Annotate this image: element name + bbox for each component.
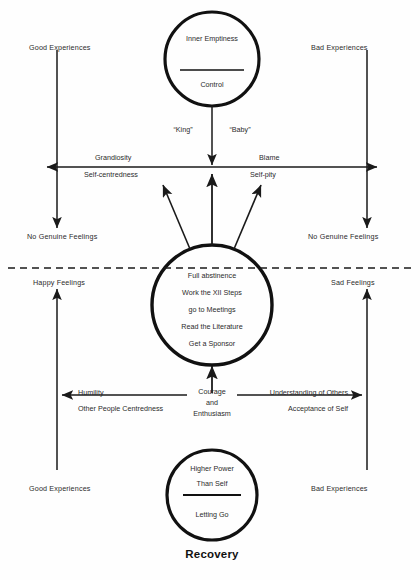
axis-label-other-people-centredness: Other People Centredness	[78, 404, 163, 413]
courage-stack-line-1: and	[193, 397, 231, 408]
axis-label-self-centredness: Self-centredness	[84, 170, 138, 179]
center-circle-line-1: Work the XII Steps	[181, 288, 243, 297]
courage-stack: Courage and Enthusiasm	[193, 386, 231, 419]
label-top-right-bad-experiences: Bad Experiences	[311, 43, 368, 52]
center-circle-arrow-up-left	[163, 185, 190, 249]
center-circle-line-0: Full abstinence	[181, 271, 243, 280]
bottom-circle-line-1: Than Self	[190, 479, 234, 488]
label-left-no-genuine-feelings: No Genuine Feelings	[27, 232, 97, 241]
top-circle-outline	[165, 12, 259, 106]
bottom-circle-upper-block: Higher Power Than Self	[190, 464, 234, 488]
quote-baby: “Baby”	[229, 125, 250, 134]
axis-label-grandiosity: Grandiosity	[95, 153, 131, 162]
label-top-left-good-experiences: Good Experiences	[29, 43, 91, 52]
bottom-circle-lower-text: Letting Go	[195, 510, 228, 519]
recovery-title: Recovery	[185, 548, 238, 560]
bottom-circle-line-0: Higher Power	[190, 464, 234, 473]
axis-label-self-pity: Self-pity	[250, 170, 276, 179]
recovery-diagram-canvas: Inner Emptiness Control Good Experiences…	[0, 0, 420, 580]
courage-stack-line-0: Courage	[193, 386, 231, 397]
label-bottom-left-good-experiences: Good Experiences	[29, 484, 91, 493]
axis-label-understanding-of-others: Understanding of Others	[270, 388, 348, 397]
axis-label-humility: Humility	[78, 388, 104, 397]
center-circle-line-2: go to Meetings	[181, 305, 243, 314]
center-circle-text-block: Full abstinence Work the XII Steps go to…	[181, 271, 243, 348]
top-circle-upper-text: Inner Emptiness	[186, 34, 238, 43]
top-circle-lower-text: Control	[200, 80, 223, 89]
courage-stack-line-2: Enthusiasm	[193, 408, 231, 419]
label-bottom-right-bad-experiences: Bad Experiences	[311, 484, 368, 493]
center-circle-line-3: Read the Literature	[181, 322, 243, 331]
label-left-happy-feelings: Happy Feelings	[33, 278, 85, 287]
axis-label-blame: Blame	[259, 153, 279, 162]
center-circle-arrow-up-right	[234, 185, 261, 249]
label-right-no-genuine-feelings: No Genuine Feelings	[308, 232, 378, 241]
label-right-sad-feelings: Sad Feelings	[331, 278, 375, 287]
axis-label-acceptance-of-self: Acceptance of Self	[288, 404, 348, 413]
quote-king: “King”	[173, 125, 192, 134]
center-circle-line-4: Get a Sponsor	[181, 339, 243, 348]
